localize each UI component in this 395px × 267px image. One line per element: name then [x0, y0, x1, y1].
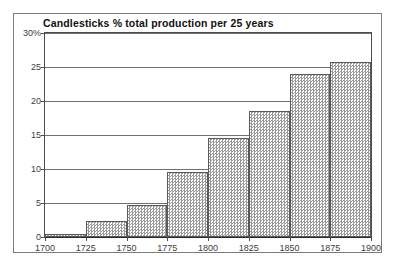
xtick-label-1700: 1700: [35, 243, 55, 253]
chart-figure: Candlesticks % total production per 25 y…: [13, 13, 382, 253]
ytick-label-0: 0: [36, 232, 41, 242]
ytick-label-10: 10: [31, 164, 41, 174]
bar-1800: [208, 138, 249, 237]
xtick-label-1850: 1850: [279, 243, 299, 253]
xtick-mark-1850: [290, 237, 291, 241]
xtick-mark-1750: [127, 237, 128, 241]
plot-area: 30% 25 20 15 10 5 0: [44, 32, 372, 238]
ytick-mark-30: [41, 33, 45, 34]
xtick-mark-1875: [330, 237, 331, 241]
ytick-label-20: 20: [31, 96, 41, 106]
bar-1825: [249, 111, 290, 237]
bar-1875: [330, 62, 371, 237]
ytick-mark-25: [41, 67, 45, 68]
bar-1725: [86, 221, 127, 237]
xtick-label-1875: 1875: [320, 243, 340, 253]
bar-1700: [45, 234, 86, 237]
xtick-label-1750: 1750: [116, 243, 136, 253]
xtick-mark-1700: [45, 237, 46, 241]
chart-title: Candlesticks % total production per 25 y…: [43, 17, 274, 29]
bar-1775: [167, 172, 208, 237]
xtick-label-1775: 1775: [157, 243, 177, 253]
xtick-label-1800: 1800: [198, 243, 218, 253]
xtick-label-1825: 1825: [239, 243, 259, 253]
ytick-mark-5: [41, 203, 45, 204]
bar-1750: [127, 205, 168, 237]
ytick-label-30: 30%: [23, 28, 41, 38]
gridline-25: [45, 67, 371, 68]
ytick-label-15: 15: [31, 130, 41, 140]
ytick-label-25: 25: [31, 62, 41, 72]
xtick-mark-1775: [167, 237, 168, 241]
ytick-mark-10: [41, 169, 45, 170]
xtick-label-1900: 1900: [361, 243, 381, 253]
xtick-label-1725: 1725: [76, 243, 96, 253]
xtick-mark-1825: [249, 237, 250, 241]
ytick-mark-15: [41, 135, 45, 136]
xtick-mark-1800: [208, 237, 209, 241]
xtick-mark-1900: [371, 237, 372, 241]
xtick-mark-1725: [86, 237, 87, 241]
bar-1850: [290, 74, 331, 237]
ytick-mark-20: [41, 101, 45, 102]
ytick-label-5: 5: [36, 198, 41, 208]
gridline-30: [45, 33, 371, 34]
